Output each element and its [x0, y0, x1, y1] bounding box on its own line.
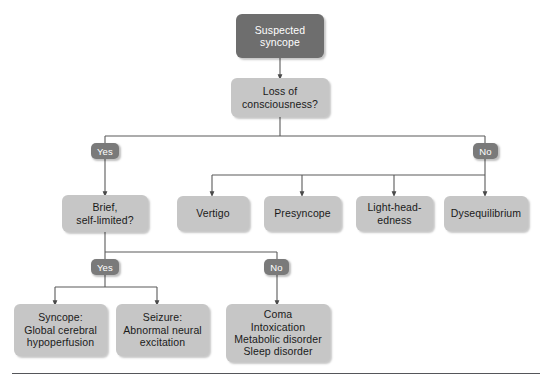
node-seizure-outcome[interactable]: Seizure: Abnormal neural excitation	[116, 304, 209, 356]
node-suspected-syncope[interactable]: Suspected syncope	[236, 14, 324, 58]
edge-label-loc-yes: Yes	[91, 143, 119, 159]
node-light-headedness-label: Light-head- edness	[367, 201, 421, 226]
edge-label-brief-yes: Yes	[91, 259, 119, 275]
node-brief-self-limited-label: Brief, self-limited?	[76, 201, 133, 226]
edge-label-brief-no-text: No	[270, 262, 283, 273]
node-loss-of-consciousness-label: Loss of consciousness?	[242, 85, 318, 110]
node-suspected-syncope-label: Suspected syncope	[255, 24, 306, 49]
node-vertigo[interactable]: Vertigo	[177, 196, 249, 231]
edge-label-loc-no: No	[473, 143, 498, 159]
node-vertigo-label: Vertigo	[196, 207, 229, 219]
node-seizure-outcome-label: Seizure: Abnormal neural excitation	[123, 311, 202, 348]
node-dysequilibrium[interactable]: Dysequilibrium	[444, 196, 528, 231]
edge-label-loc-no-text: No	[479, 146, 492, 157]
node-other-outcome[interactable]: Coma Intoxication Metabolic disorder Sle…	[226, 304, 330, 362]
node-loss-of-consciousness[interactable]: Loss of consciousness?	[231, 78, 329, 117]
node-syncope-outcome-label: Syncope: Global cerebral hypoperfusion	[24, 311, 97, 348]
node-dysequilibrium-label: Dysequilibrium	[451, 207, 521, 219]
node-light-headedness[interactable]: Light-head- edness	[356, 196, 433, 231]
edge-label-brief-no: No	[264, 259, 289, 275]
node-presyncope-label: Presyncope	[274, 207, 330, 219]
node-other-outcome-label: Coma Intoxication Metabolic disorder Sle…	[234, 308, 322, 358]
footer-divider	[12, 373, 540, 374]
node-brief-self-limited[interactable]: Brief, self-limited?	[62, 195, 148, 232]
flowchart-canvas: Suspected syncope Loss of consciousness?…	[0, 0, 554, 387]
node-presyncope[interactable]: Presyncope	[264, 196, 341, 231]
edge-label-brief-yes-text: Yes	[97, 262, 113, 273]
edge-label-loc-yes-text: Yes	[97, 146, 113, 157]
node-syncope-outcome[interactable]: Syncope: Global cerebral hypoperfusion	[14, 304, 107, 356]
